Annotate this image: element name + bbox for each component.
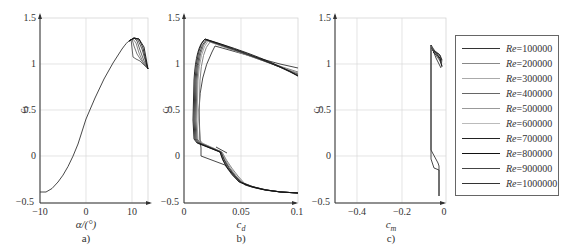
ytick: 1.5: [319, 12, 332, 23]
xtick: 0.1: [291, 206, 304, 217]
y-axis-arrow-icon: [333, 13, 337, 19]
ytick: 1.5: [24, 12, 37, 23]
series-curves: [431, 45, 442, 196]
legend-item: Re=100000: [462, 41, 558, 55]
y-axis-arrow-icon: [182, 13, 186, 19]
ytick: 1: [175, 58, 180, 69]
legend-item: Re=600000: [462, 116, 558, 130]
series-curves: [193, 39, 298, 193]
ytick: −0.5: [312, 196, 330, 207]
legend-item: Re=300000: [462, 71, 558, 85]
panel-b: 1.5 1 0.5 0 −0.5 0 0.05 0.1 cd cl b): [158, 12, 303, 245]
legend-item: Re=900000: [462, 161, 558, 175]
x-axis-label: α/(°): [76, 218, 97, 231]
ytick: 1: [326, 58, 331, 69]
x-axis-arrow-icon: [146, 201, 152, 205]
ytick: −0.5: [161, 196, 179, 207]
xtick: 0: [182, 206, 187, 217]
legend: Re=100000 Re=200000 Re=300000 Re=400000 …: [455, 35, 559, 196]
ytick: 0: [31, 150, 36, 161]
panel-c: 1.5 1 0.5 0 −0.5 −0.4 −0.2 0 cm cl c): [309, 12, 447, 245]
xtick: −0.4: [348, 206, 366, 217]
x-axis-arrow-icon: [440, 201, 446, 205]
xtick: 10: [127, 206, 137, 217]
xtick: −10: [32, 206, 48, 217]
ytick: 0: [326, 150, 331, 161]
legend-item: Re=1000000: [462, 176, 558, 190]
x-axis-label: cm: [386, 218, 397, 233]
x-axis-arrow-icon: [292, 201, 298, 205]
xtick: 0: [442, 206, 447, 217]
panel-label: b): [236, 232, 246, 245]
legend-item: Re=400000: [462, 86, 558, 100]
panel-a: 1.5 1 0.5 0 −0.5 −10 0 10 α/(°) cl a): [16, 12, 152, 245]
panel-label: c): [387, 232, 396, 245]
plot-frame: [335, 18, 446, 203]
legend-item: Re=200000: [462, 56, 558, 70]
xtick: 0: [84, 206, 89, 217]
ytick: 1: [31, 58, 36, 69]
legend-item: Re=500000: [462, 101, 558, 115]
xtick: −0.2: [393, 206, 411, 217]
legend-item: Re=700000: [462, 131, 558, 145]
xtick: 0.05: [232, 206, 250, 217]
legend-item: Re=800000: [462, 146, 558, 160]
panel-label: a): [82, 232, 91, 245]
ytick: 0: [175, 150, 180, 161]
y-axis-arrow-icon: [38, 13, 42, 19]
ytick: 1.5: [168, 12, 181, 23]
x-axis-label: cd: [237, 218, 247, 233]
